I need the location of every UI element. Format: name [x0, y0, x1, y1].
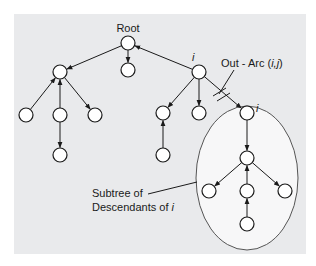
node-j1b	[240, 184, 254, 198]
node-a1	[19, 108, 33, 122]
node-j	[240, 106, 254, 120]
node-j1a	[202, 184, 216, 198]
node-b	[121, 63, 135, 77]
node-i	[192, 65, 206, 79]
node-i1	[156, 106, 170, 120]
node-a	[53, 65, 67, 79]
root-label: Root	[116, 22, 139, 34]
node-j1bc	[240, 217, 254, 231]
node-i1c	[156, 148, 170, 162]
node-a3	[88, 108, 102, 122]
node-a2c	[53, 148, 67, 162]
node-root	[121, 36, 135, 50]
node-a2	[53, 108, 67, 122]
node-j1c	[278, 184, 292, 198]
subtree-label-line1: Subtree of	[92, 187, 144, 199]
out-arc-label: Out - Arc (i,j)	[221, 57, 283, 69]
node-j1	[240, 151, 254, 165]
tree-diagram: Root i i Out - Arc (i,j) Subtree of Desc…	[0, 0, 316, 266]
subtree-label-line2: Descendants of i	[92, 201, 175, 213]
node-i2	[192, 106, 206, 120]
